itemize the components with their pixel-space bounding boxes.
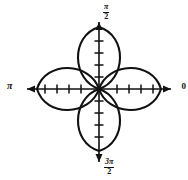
axis-label-half-pi: π 2 xyxy=(103,3,109,21)
axis-arrowhead-left xyxy=(27,86,35,93)
axis-label-half-pi-numerator: π xyxy=(103,3,109,11)
axis-arrowhead-down xyxy=(96,154,103,162)
axis-label-half-pi-denominator: 2 xyxy=(103,13,109,21)
axis-label-three-half-pi-numerator: 3π xyxy=(104,158,114,166)
axis-label-zero: 0 xyxy=(182,82,187,91)
vertical-axis xyxy=(95,22,104,162)
polar-plot-canvas xyxy=(0,0,188,180)
polar-rose-curve-figure: 0 π π 2 3π 2 xyxy=(0,0,188,180)
axis-label-three-half-pi-denominator: 2 xyxy=(104,168,114,176)
axis-arrowhead-right xyxy=(163,86,171,93)
axis-label-pi: π xyxy=(7,81,12,91)
axis-label-three-half-pi: 3π 2 xyxy=(104,158,114,176)
